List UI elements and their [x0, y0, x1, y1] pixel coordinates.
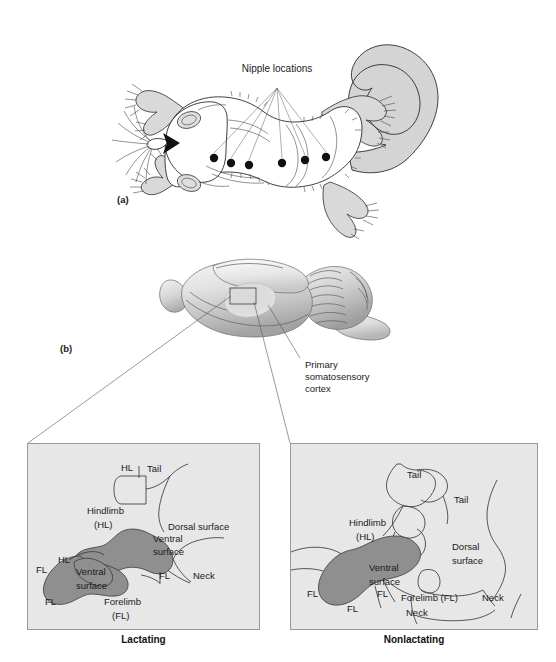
nonlactating-right-border-2	[511, 594, 521, 618]
lactating-label-ventral: Ventral	[153, 533, 183, 544]
lactating-label-fl: (FL)	[112, 610, 129, 621]
nonlactating-label-hl: (HL)	[356, 531, 374, 542]
lactating-label-tail: Tail	[147, 463, 161, 474]
lactating-label-fl: FL	[36, 564, 47, 575]
nonlactating-forelimb-region	[418, 569, 440, 593]
nonlactating-label-neck: Neck	[406, 607, 428, 618]
lactating-label-hl: HL	[58, 554, 70, 565]
lactating-tail-region	[114, 476, 146, 504]
nonlactating-label-tail: Tail	[407, 469, 421, 480]
nonlactating-label-fl: FL	[307, 588, 318, 599]
nonlactating-fl-border-left-2	[291, 569, 323, 571]
s1-label-line-2: somatosensory	[305, 371, 370, 382]
nonlactating-label-tail: Tail	[454, 494, 468, 505]
nonlactating-label-fl: FL	[377, 588, 388, 599]
part-label-b: (b)	[60, 343, 72, 354]
nonlactating-label-surface: surface	[452, 555, 483, 566]
nonlactating-tail-inner-loop	[392, 506, 425, 538]
lactating-label-ventral: Ventral	[76, 566, 106, 577]
cortical-map-panel-lactating: HLTailHindlimb(HL)Dorsal surfaceVentrals…	[27, 443, 260, 630]
nonlactating-label-dorsal: Dorsal	[452, 541, 479, 552]
lactating-label-fl: FL	[45, 596, 56, 607]
lactating-neck-border-3	[173, 559, 191, 582]
lactating-label-neck: Neck	[193, 570, 215, 581]
cortical-map-panel-nonlactating: TailTailHindlimb(HL)DorsalsurfaceVentral…	[290, 443, 538, 630]
lactating-label-surface: surface	[153, 546, 184, 557]
panel-caption-nonlactating: Nonlactating	[290, 634, 538, 645]
nonlactating-tail-lead-1	[417, 469, 448, 502]
lactating-label-surface: surface	[76, 580, 107, 591]
s1-label-line-1: Primary	[305, 359, 338, 370]
cortical-map-lactating-svg: HLTailHindlimb(HL)Dorsal surfaceVentrals…	[28, 444, 261, 631]
lactating-label-dorsal-surface: Dorsal surface	[168, 521, 229, 532]
nonlactating-neck-border-2	[417, 610, 495, 621]
nonlactating-label-surface: surface	[369, 576, 400, 587]
nonlactating-tail-lead-2	[443, 496, 448, 524]
figure-root: Nipple locations (a)	[0, 0, 556, 662]
lactating-label-hindlimb: Hindlimb	[87, 505, 124, 516]
s1-label-line-3: cortex	[305, 383, 331, 394]
nonlactating-label-hindlimb: Hindlimb	[349, 517, 386, 528]
nonlactating-label-neck: Neck	[482, 592, 504, 603]
lactating-label-hl: HL	[121, 462, 133, 473]
cortical-map-nonlactating-svg: TailTailHindlimb(HL)DorsalsurfaceVentral…	[291, 444, 539, 631]
nonlactating-left-border	[383, 506, 403, 536]
lactating-label-forelimb: Forelimb	[104, 596, 141, 607]
nonlactating-right-border	[487, 480, 506, 602]
lactating-label-fl: FL	[159, 570, 170, 581]
leader-box-to-lactating-panel	[28, 296, 231, 443]
lactating-label-hl: (HL)	[94, 519, 112, 530]
primary-somatosensory-cortex-label: Primary somatosensory cortex	[305, 359, 372, 394]
panel-caption-lactating: Lactating	[27, 634, 260, 645]
lactating-fl-border-mid	[141, 575, 160, 583]
nonlactating-label-fl: FL	[347, 603, 358, 614]
nonlactating-label-forelimb-fl: Forelimb (FL)	[401, 592, 458, 603]
nonlactating-label-ventral: Ventral	[369, 562, 399, 573]
